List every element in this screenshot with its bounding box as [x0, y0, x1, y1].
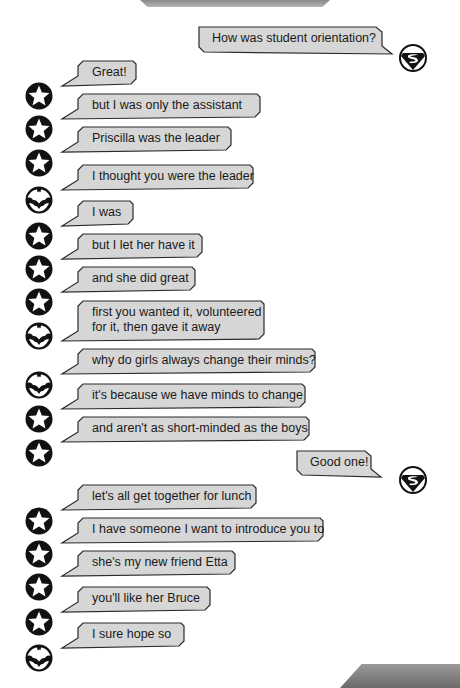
message-text: I have someone I want to introduce you t…: [92, 522, 324, 537]
chat-bubble[interactable]: and she did great: [78, 267, 195, 290]
chat-bubble[interactable]: How was student orientation?: [199, 27, 382, 52]
chat-bubble[interactable]: Priscilla was the leader: [78, 127, 231, 150]
star-icon: [25, 507, 53, 535]
message-text: and aren't as short-minded as the boys: [92, 421, 308, 436]
message-text: I thought you were the leader: [92, 169, 254, 184]
message-text: I sure hope so: [92, 627, 171, 642]
star-icon: [25, 540, 53, 568]
message-text: but I was only the assistant: [92, 98, 242, 113]
superman-icon: [399, 44, 427, 72]
message-text: I was: [92, 205, 121, 220]
star-icon: [25, 222, 53, 250]
chat-bubble[interactable]: Good one!: [297, 451, 371, 475]
star-icon: [25, 573, 53, 601]
chat-bubble[interactable]: she's my new friend Etta: [78, 551, 235, 574]
star-icon: [25, 288, 53, 316]
message-text: and she did great: [92, 271, 189, 286]
bat-icon: [25, 371, 53, 399]
star-icon: [25, 115, 53, 143]
message-text: why do girls always change their minds?: [92, 353, 316, 368]
chat-bubble[interactable]: why do girls always change their minds?: [78, 349, 315, 372]
chat-bubble[interactable]: I thought you were the leader: [78, 165, 253, 188]
star-icon: [25, 82, 53, 110]
chat-bubble[interactable]: let's all get together for lunch: [78, 485, 256, 508]
chat-bubble[interactable]: I was: [78, 201, 133, 224]
bat-icon: [25, 644, 53, 672]
bottom-decoration: [340, 664, 460, 688]
star-icon: [25, 405, 53, 433]
chat-bubble[interactable]: I have someone I want to introduce you t…: [78, 518, 323, 541]
message-text: Priscilla was the leader: [92, 131, 220, 146]
chat-bubble[interactable]: I sure hope so: [78, 623, 184, 646]
message-text: Great!: [92, 65, 127, 80]
star-icon: [25, 439, 53, 467]
chat-bubble[interactable]: first you wanted it, volunteered for it,…: [78, 301, 264, 339]
star-icon: [25, 608, 53, 636]
chat-bubble[interactable]: but I let her have it: [78, 234, 202, 257]
chat-bubble[interactable]: and aren't as short-minded as the boys: [78, 417, 309, 440]
message-text: How was student orientation?: [212, 31, 376, 46]
chat-bubble[interactable]: it's because we have minds to change: [78, 384, 305, 407]
message-text: let's all get together for lunch: [92, 489, 251, 504]
message-text: you'll like her Bruce: [92, 591, 200, 606]
bat-icon: [25, 322, 53, 350]
message-text: it's because we have minds to change: [92, 388, 303, 403]
message-text: Good one!: [310, 455, 368, 470]
message-text: she's my new friend Etta: [92, 555, 228, 570]
star-icon: [25, 255, 53, 283]
star-icon: [25, 149, 53, 177]
superman-icon: [399, 466, 427, 494]
top-decoration: [140, 0, 330, 7]
chat-bubble[interactable]: Great!: [78, 61, 136, 84]
chat-bubble[interactable]: you'll like her Bruce: [78, 587, 210, 610]
message-text: but I let her have it: [92, 238, 195, 253]
bat-icon: [25, 186, 53, 214]
chat-bubble[interactable]: but I was only the assistant: [78, 94, 260, 117]
message-text: first you wanted it, volunteered for it,…: [92, 305, 262, 335]
